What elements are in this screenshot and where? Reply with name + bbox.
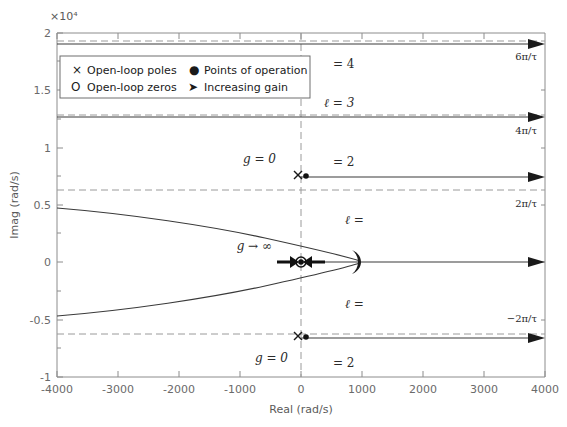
y-tick-label: 0 — [44, 256, 51, 269]
legend-label-open-loop-poles: Open-loop poles — [87, 64, 177, 77]
x-tick-label: 3000 — [470, 383, 498, 396]
y-tick-label: 1 — [44, 142, 51, 155]
y-axis-multiplier: ×10⁴ — [50, 10, 78, 23]
legend: × Open-loop poles ● Points of operation … — [60, 56, 310, 98]
edge-label-neg-2pi-tau: −2π/τ — [507, 313, 538, 324]
arrow-shaft-left — [277, 261, 291, 264]
plot-canvas: -4000 -3000 -2000 -1000 0 1000 2000 3000… — [0, 0, 567, 427]
x-tick-label: 1000 — [348, 383, 376, 396]
dot-marker — [298, 259, 304, 265]
branch-label-l1-upper: ℓ = — [345, 213, 364, 227]
arrow-marker: ➤ — [188, 80, 198, 94]
root-locus-figure: -4000 -3000 -2000 -1000 0 1000 2000 3000… — [0, 0, 567, 427]
gain-zero-upper: g = 0 — [243, 152, 276, 166]
legend-label-points-of-operation: Points of operation — [204, 64, 307, 77]
dot-marker — [303, 173, 309, 179]
x-tick-label: 0 — [298, 383, 305, 396]
gain-infinity: g → ∞ — [237, 239, 272, 253]
cross-marker: × — [72, 63, 82, 77]
edge-label-6pi-tau: 6π/τ — [515, 51, 537, 62]
y-tick-label: -0.5 — [30, 314, 51, 327]
circle-marker: O — [71, 80, 80, 94]
arrow-shaft-right — [311, 261, 325, 264]
y-tick-label: 2 — [44, 27, 51, 40]
legend-label-increasing-gain: Increasing gain — [204, 81, 288, 94]
edge-label-4pi-tau: 4π/τ — [515, 125, 537, 136]
y-tick-label: -1 — [40, 371, 51, 384]
y-tick-label: 1.5 — [34, 84, 52, 97]
x-tick-label: -2000 — [163, 383, 195, 396]
branch-label-l1-lower: ℓ = — [345, 297, 364, 311]
branch-label-l2-lower: = 2 — [333, 356, 355, 370]
branch-label-l3: ℓ = 3 — [324, 96, 355, 110]
gain-zero-lower: g = 0 — [255, 351, 288, 365]
x-tick-label: -3000 — [102, 383, 134, 396]
legend-label-open-loop-zeros: Open-loop zeros — [87, 81, 177, 94]
x-tick-label: -1000 — [224, 383, 256, 396]
edge-label-2pi-tau: 2π/τ — [515, 198, 537, 209]
dot-marker — [303, 334, 309, 340]
dot-marker: ● — [189, 63, 199, 77]
x-tick-label: -4000 — [41, 383, 73, 396]
branch-label-l4: = 4 — [333, 57, 355, 71]
y-axis-label: Imag (rad/s) — [8, 171, 21, 238]
branch-label-l2-upper: = 2 — [333, 155, 355, 169]
x-axis-label: Real (rad/s) — [269, 403, 332, 416]
y-tick-label: 0.5 — [34, 199, 52, 212]
x-tick-label: 2000 — [409, 383, 437, 396]
x-tick-labels: -4000 -3000 -2000 -1000 0 1000 2000 3000… — [41, 383, 559, 396]
x-tick-label: 4000 — [531, 383, 559, 396]
